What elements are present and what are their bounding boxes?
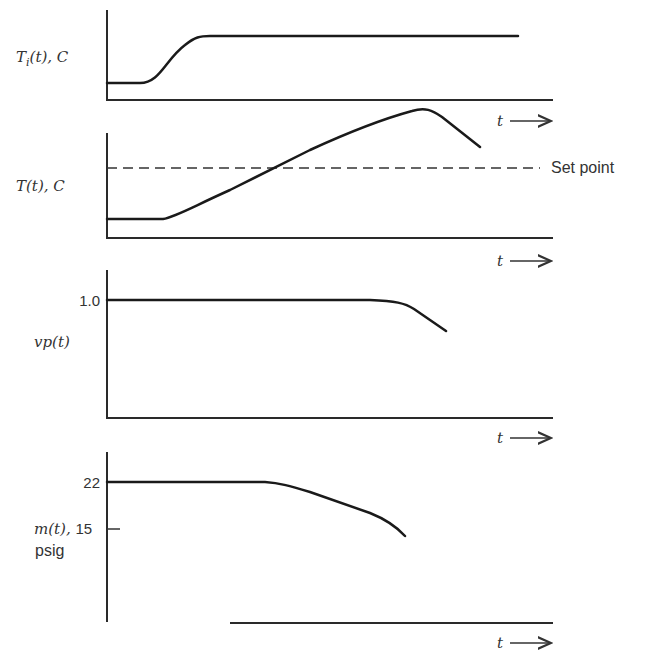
panel-vp-axes <box>107 270 553 418</box>
m-tlabel: t <box>497 634 504 652</box>
panel-ti: Ti(t), C t <box>16 10 553 130</box>
panel-t-axes <box>107 133 553 238</box>
m-ylabel: m(t), 15 <box>34 520 92 538</box>
panel-t: Set point T(t), C t <box>16 109 615 270</box>
t-ylabel: T(t), C <box>16 177 65 195</box>
ti-curve <box>107 36 518 83</box>
ti-ylabel: Ti(t), C <box>16 48 69 69</box>
panel-m-axes <box>107 452 553 623</box>
m-curve <box>107 482 405 536</box>
vp-ylabel: vp(t) <box>34 333 70 351</box>
vp-curve <box>107 300 446 331</box>
setpoint-label: Set point <box>551 159 615 176</box>
panel-m: 22 m(t), 15 psig t <box>34 452 553 652</box>
ti-tlabel: t <box>497 112 504 130</box>
m-tick-22-label: 22 <box>83 474 100 491</box>
chart-figure: Ti(t), C t Set point T(t), C t 1.0 vp(t)… <box>0 0 645 660</box>
vp-tlabel: t <box>497 429 504 447</box>
vp-tick-1: 1.0 <box>79 292 100 309</box>
t-curve <box>107 109 480 219</box>
panel-vp: 1.0 vp(t) t <box>34 270 553 447</box>
m-ylabel-unit: psig <box>35 542 64 559</box>
t-tlabel: t <box>497 252 504 270</box>
